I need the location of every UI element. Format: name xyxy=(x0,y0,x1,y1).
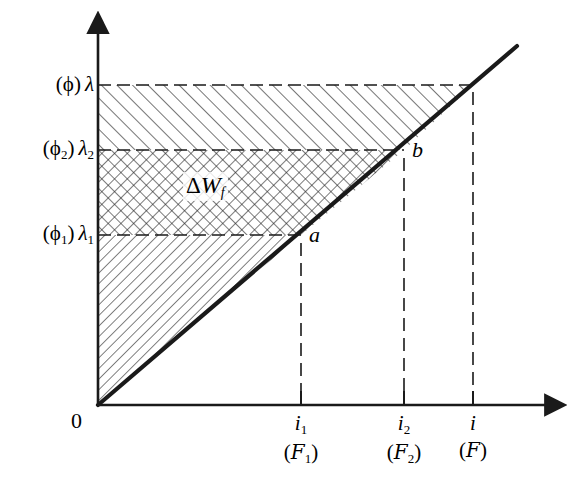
delta-wf-region xyxy=(98,150,404,235)
x-tick-value-i: i xyxy=(433,413,513,434)
y-tick-value-lambda2: λ2 xyxy=(78,136,94,160)
x-tick-label-i: i (F) xyxy=(433,413,513,461)
y-tick-paren-lambda1: (ϕ1) xyxy=(43,221,75,245)
y-tick-label-lambda: (ϕ) λ xyxy=(56,72,94,97)
y-tick-label-lambda2: (ϕ2) λ2 xyxy=(43,136,94,163)
delta-symbol: Δ xyxy=(186,173,201,198)
x-axis-ticks xyxy=(301,391,473,405)
y-tick-paren-lambda: (ϕ) xyxy=(56,72,81,96)
x-tick-value-i1: i1 xyxy=(261,413,341,436)
x-tick-paren-i1: (F1) xyxy=(261,442,341,465)
x-tick-label-i1: i1 (F1) xyxy=(261,413,341,465)
y-tick-value-lambda1: λ1 xyxy=(78,221,94,245)
w-subscript: f xyxy=(221,185,225,200)
point-label-a: a xyxy=(309,224,320,246)
w-symbol: W xyxy=(201,172,221,198)
y-tick-paren-lambda2: (ϕ2) xyxy=(43,136,75,160)
x-tick-paren-i2: (F2) xyxy=(364,442,444,465)
origin-label: 0 xyxy=(71,410,82,432)
lambda-i-diagram: (ϕ) λ (ϕ2) λ2 (ϕ1) λ1 0 i1 (F1) i2 (F2) … xyxy=(0,0,580,490)
delta-wf-label: ΔWf xyxy=(183,172,228,201)
y-tick-value-lambda: λ xyxy=(85,72,94,96)
x-tick-label-i2: i2 (F2) xyxy=(364,413,444,465)
y-tick-label-lambda1: (ϕ1) λ1 xyxy=(43,221,94,248)
x-tick-paren-i: (F) xyxy=(433,440,513,461)
point-label-b: b xyxy=(412,139,423,161)
x-tick-value-i2: i2 xyxy=(364,413,444,436)
